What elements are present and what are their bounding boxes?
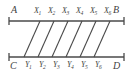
top-node-label-x2-subscript: 2 <box>52 10 55 16</box>
top-node-label-x5: X5 <box>90 7 98 15</box>
bottom-node-label-y2: Y2 <box>39 61 46 69</box>
bottom-node-label-y4: Y4 <box>67 61 74 69</box>
corner-label-D: D <box>113 61 120 71</box>
bottom-node-label-y1-subscript: 1 <box>29 64 32 70</box>
bottom-node-label-y5: Y5 <box>81 61 88 69</box>
bottom-node-label-y3: Y3 <box>53 61 60 69</box>
transversal-2 <box>38 21 54 57</box>
bottom-node-label-y4-subscript: 4 <box>71 64 74 70</box>
transversal-3 <box>52 21 68 57</box>
transversal-5 <box>80 21 96 57</box>
bottom-node-label-y5-subscript: 5 <box>85 64 88 70</box>
bottom-node-label-y1: Y1 <box>25 61 32 69</box>
top-node-label-x1: X1 <box>34 7 42 15</box>
corner-label-B: B <box>113 5 119 15</box>
bottom-node-label-y6-subscript: 6 <box>99 64 102 70</box>
transversal-6 <box>94 21 110 57</box>
top-node-label-x5-subscript: 5 <box>94 10 97 16</box>
bottom-node-label-y2-subscript: 2 <box>43 64 46 70</box>
top-node-label-x3-subscript: 3 <box>66 10 69 16</box>
transversals-group <box>24 21 110 57</box>
top-node-label-x6: X6 <box>104 7 112 15</box>
corner-label-C: C <box>10 61 17 71</box>
bottom-node-label-y3-subscript: 3 <box>57 64 60 70</box>
top-node-label-x1-subscript: 1 <box>38 10 41 16</box>
transversal-1 <box>24 21 40 57</box>
top-node-label-x6-subscript: 6 <box>108 10 111 16</box>
top-node-label-x4: X4 <box>76 7 84 15</box>
top-node-label-x3: X3 <box>62 7 70 15</box>
bottom-node-label-y6: Y6 <box>95 61 102 69</box>
top-node-label-x2: X2 <box>48 7 56 15</box>
transversal-4 <box>66 21 82 57</box>
geometry-figure: ABCD X1X2X3X4X5X6 Y1Y2Y3Y4Y5Y6 <box>0 0 134 77</box>
corner-label-A: A <box>11 5 17 15</box>
top-node-label-x4-subscript: 4 <box>80 10 83 16</box>
